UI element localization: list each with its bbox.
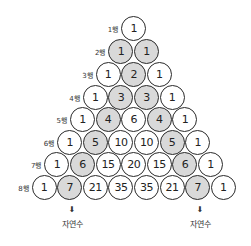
triangle-cell: 1 bbox=[32, 175, 57, 200]
natural-number-label: 자연수 bbox=[62, 218, 83, 229]
row-label: 1행 bbox=[94, 24, 118, 34]
row-label: 2행 bbox=[81, 47, 105, 57]
triangle-cell: 1 bbox=[44, 152, 69, 177]
row-label: 8행 bbox=[5, 183, 29, 193]
triangle-cell: 1 bbox=[108, 39, 133, 64]
row-label: 5행 bbox=[43, 115, 67, 125]
triangle-cell: 1 bbox=[172, 107, 197, 132]
triangle-cell: 21 bbox=[160, 175, 185, 200]
triangle-cell: 1 bbox=[121, 16, 146, 41]
natural-number-label: 자연수 bbox=[190, 218, 211, 229]
triangle-cell: 1 bbox=[70, 107, 95, 132]
triangle-cell: 1 bbox=[198, 152, 223, 177]
triangle-cell: 35 bbox=[134, 175, 159, 200]
triangle-cell: 15 bbox=[147, 152, 172, 177]
triangle-cell: 6 bbox=[172, 152, 197, 177]
down-arrow-icon: ⬇ bbox=[197, 205, 204, 214]
triangle-cell: 1 bbox=[83, 85, 108, 110]
triangle-cell: 7 bbox=[57, 175, 82, 200]
triangle-cell: 35 bbox=[108, 175, 133, 200]
triangle-cell: 21 bbox=[83, 175, 108, 200]
row-label: 3행 bbox=[69, 70, 93, 80]
triangle-cell: 1 bbox=[211, 175, 236, 200]
triangle-cell: 7 bbox=[185, 175, 210, 200]
triangle-cell: 1 bbox=[134, 39, 159, 64]
triangle-cell: 20 bbox=[121, 152, 146, 177]
triangle-cell: 6 bbox=[70, 152, 95, 177]
triangle-cell: 4 bbox=[147, 107, 172, 132]
triangle-cell: 6 bbox=[121, 107, 146, 132]
down-arrow-icon: ⬇ bbox=[69, 205, 76, 214]
triangle-cell: 5 bbox=[83, 130, 108, 155]
pascal-triangle-diagram: 1행12행113행1214행13315행146416행151010517행161… bbox=[0, 0, 251, 246]
row-label: 7행 bbox=[17, 160, 41, 170]
triangle-cell: 15 bbox=[96, 152, 121, 177]
triangle-cell: 1 bbox=[147, 62, 172, 87]
triangle-cell: 4 bbox=[96, 107, 121, 132]
row-label: 4행 bbox=[56, 93, 80, 103]
triangle-cell: 1 bbox=[96, 62, 121, 87]
row-label: 6행 bbox=[30, 138, 54, 148]
triangle-cell: 2 bbox=[121, 62, 146, 87]
